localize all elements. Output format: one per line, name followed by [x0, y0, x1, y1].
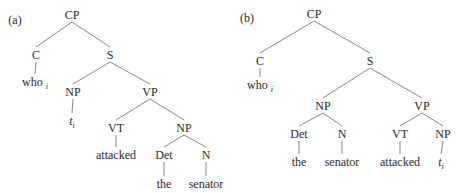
tree-edge — [73, 62, 110, 84]
tree-edge — [164, 135, 184, 147]
node-attacked: attacked — [96, 148, 136, 162]
panel-label: (b) — [240, 11, 254, 25]
node-senator: senator — [189, 177, 224, 191]
node-senator: senator — [325, 155, 360, 169]
node-np: NP — [435, 127, 451, 141]
tree-edge — [370, 68, 422, 98]
node-t: ti — [438, 155, 444, 171]
node-vt: VT — [108, 121, 125, 135]
tree-edge — [400, 113, 422, 126]
tree-edge — [299, 113, 323, 126]
tree-edge — [314, 21, 370, 53]
node-attacked: attacked — [380, 155, 420, 169]
node-n: N — [202, 148, 211, 162]
tree-edge — [323, 113, 342, 126]
node-the: the — [157, 177, 172, 191]
node-c: C — [256, 54, 264, 68]
node-who: whoi — [22, 75, 48, 91]
node-det: Det — [290, 127, 308, 141]
tree-edge — [116, 99, 150, 120]
tree-edge — [36, 22, 72, 47]
tree-edge — [72, 99, 73, 113]
node-n: N — [338, 127, 347, 141]
node-vt: VT — [392, 127, 409, 141]
node-c: C — [32, 48, 40, 62]
node-np: NP — [65, 85, 81, 99]
node-s: S — [107, 48, 114, 62]
node-cp: CP — [65, 8, 80, 22]
tree-edge — [150, 99, 184, 120]
tree-edge — [110, 62, 150, 84]
node-det: Det — [155, 148, 173, 162]
node-the: the — [292, 155, 307, 169]
node-np: NP — [315, 99, 331, 113]
node-cp: CP — [307, 7, 322, 21]
node-vp: VP — [142, 85, 158, 99]
tree-edge — [260, 21, 314, 53]
tree-edge — [35, 62, 36, 74]
node-t: ti — [69, 114, 75, 130]
tree-a: (a)CPCSwhoiNPVPtiVTNPattackedDetNthesena… — [8, 8, 223, 191]
tree-edge — [323, 68, 370, 98]
tree-edge — [184, 135, 206, 147]
syntax-trees: (a)CPCSwhoiNPVPtiVTNPattackedDetNthesena… — [0, 0, 464, 193]
tree-b: (b)CPCSwhoiNPVPDetNVTNPthesenatorattacke… — [240, 7, 451, 171]
tree-edge — [72, 22, 110, 47]
node-s: S — [367, 54, 374, 68]
node-vp: VP — [414, 99, 430, 113]
node-who: whoi — [247, 78, 273, 94]
panel-label: (a) — [8, 13, 21, 27]
tree-edge — [441, 141, 443, 154]
node-np: NP — [176, 121, 192, 135]
tree-edge — [422, 113, 443, 126]
